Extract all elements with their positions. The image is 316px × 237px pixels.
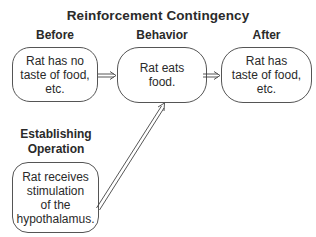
arrow-behavior-to-after [203, 72, 220, 80]
arrows-layer [0, 0, 316, 237]
arrow-before-to-behavior [98, 72, 116, 80]
arrow-eo-to-behavior [97, 103, 165, 210]
